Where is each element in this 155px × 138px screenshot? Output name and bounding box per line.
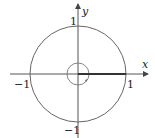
x-tick-positive: 1 (127, 78, 134, 91)
y-tick-positive: 1 (70, 15, 77, 28)
y-tick-negative: −1 (64, 124, 80, 137)
unit-circle-diagram: 1 y x 1 −1 −1 (0, 0, 155, 138)
x-axis-label: x (142, 58, 149, 71)
x-tick-negative: −1 (14, 78, 30, 91)
y-axis-label: y (81, 5, 89, 18)
